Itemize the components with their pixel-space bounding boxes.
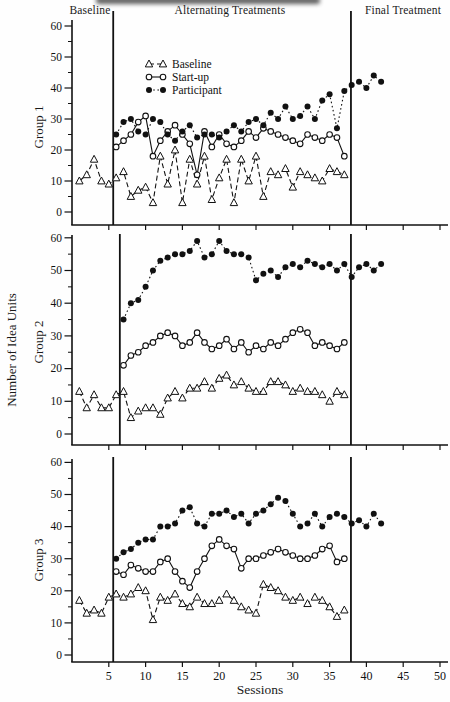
filled-circle-marker [201, 132, 207, 138]
open-circle-marker [209, 346, 215, 352]
triangle-marker [90, 155, 97, 162]
series-baseline [76, 580, 348, 622]
x-tick-label: 35 [324, 669, 336, 683]
y-tick-label: 60 [51, 20, 63, 32]
filled-circle-marker [143, 284, 149, 290]
open-circle-marker [275, 546, 281, 552]
filled-circle-marker [224, 128, 230, 134]
filled-circle-marker [113, 132, 119, 138]
y-tick-label: 0 [56, 649, 62, 661]
filled-circle-marker [297, 524, 303, 530]
filled-circle-marker [378, 79, 384, 85]
y-tick-label: 50 [51, 264, 63, 276]
filled-circle-marker [312, 116, 318, 122]
y-tick-label: 30 [51, 553, 63, 565]
filled-circle-marker [349, 82, 355, 88]
open-circle-marker [231, 346, 237, 352]
y-tick-label: 10 [51, 175, 63, 187]
series-line-participant [116, 498, 381, 559]
open-circle-marker [187, 141, 193, 147]
filled-circle-marker [121, 119, 127, 125]
triangle-marker [127, 414, 134, 421]
triangle-marker [230, 199, 237, 206]
triangle-marker [149, 616, 156, 623]
filled-circle-marker [165, 524, 171, 530]
open-circle-marker [305, 132, 311, 138]
open-circle-marker [180, 578, 186, 584]
open-circle-marker [231, 144, 237, 150]
filled-circle-marker [305, 104, 311, 110]
open-circle-marker [290, 138, 296, 144]
filled-circle-marker [363, 261, 369, 267]
open-circle-marker [172, 122, 178, 128]
filled-circle-marker [187, 122, 193, 128]
triangle-marker [311, 174, 318, 181]
open-circle-marker [305, 556, 311, 562]
triangle-marker [296, 168, 303, 175]
filled-circle-marker [334, 268, 340, 274]
y-tick-label: 50 [51, 488, 63, 500]
open-circle-marker [268, 129, 274, 135]
triangle-marker [90, 391, 97, 398]
filled-circle-marker [135, 128, 141, 134]
x-tick-label: 10 [140, 669, 152, 683]
triangle-marker [311, 593, 318, 600]
filled-circle-marker [253, 277, 259, 283]
open-circle-marker [283, 549, 289, 555]
triangle-marker [296, 384, 303, 391]
filled-circle-marker [349, 520, 355, 526]
triangle-marker [238, 155, 245, 162]
filled-circle-marker [341, 88, 347, 94]
filled-circle-marker [143, 132, 149, 138]
open-circle-marker [224, 141, 230, 147]
filled-circle-marker [209, 132, 215, 138]
series-baseline [76, 371, 348, 420]
filled-circle-marker [231, 514, 237, 520]
triangle-marker [296, 593, 303, 600]
filled-circle-marker [319, 264, 325, 270]
filled-circle-marker [179, 508, 185, 514]
open-circle-marker [312, 343, 318, 349]
open-circle-marker [312, 135, 318, 141]
filled-circle-marker [371, 268, 377, 274]
open-circle-marker [261, 346, 267, 352]
filled-circle-marker [260, 271, 266, 277]
filled-circle-marker [312, 511, 318, 517]
series-line-startup [116, 539, 344, 587]
series-startup [113, 537, 347, 591]
y-tick-label: 0 [56, 428, 62, 440]
filled-circle-marker [246, 119, 252, 125]
open-circle-marker [121, 138, 127, 144]
triangle-marker [223, 590, 230, 597]
open-circle-marker [246, 556, 252, 562]
filled-circle-marker [194, 238, 200, 244]
y-tick-label: 20 [51, 362, 63, 374]
triangle-marker [193, 180, 200, 187]
open-circle-marker [150, 153, 156, 159]
filled-circle-marker [275, 274, 281, 280]
open-circle-marker [297, 556, 303, 562]
filled-circle-marker [121, 317, 127, 323]
filled-circle-marker [260, 122, 266, 128]
triangle-marker [105, 180, 112, 187]
y-tick-label: 40 [51, 297, 63, 309]
open-circle-marker [194, 569, 200, 575]
open-circle-marker [158, 138, 164, 144]
filled-circle-marker [356, 264, 362, 270]
triangle-marker [171, 590, 178, 597]
open-circle-marker [146, 74, 152, 80]
open-circle-marker [319, 340, 325, 346]
filled-circle-marker [327, 514, 333, 520]
filled-circle-marker [363, 85, 369, 91]
filled-circle-marker [238, 128, 244, 134]
filled-circle-marker [165, 254, 171, 260]
open-circle-marker [165, 556, 171, 562]
filled-circle-marker [275, 116, 281, 122]
filled-circle-marker [238, 511, 244, 517]
triangle-marker [135, 407, 142, 414]
triangle-marker [319, 177, 326, 184]
filled-circle-marker [179, 251, 185, 257]
open-circle-marker [209, 543, 215, 549]
y-tick-label: 30 [51, 113, 63, 125]
triangle-marker [216, 174, 223, 181]
